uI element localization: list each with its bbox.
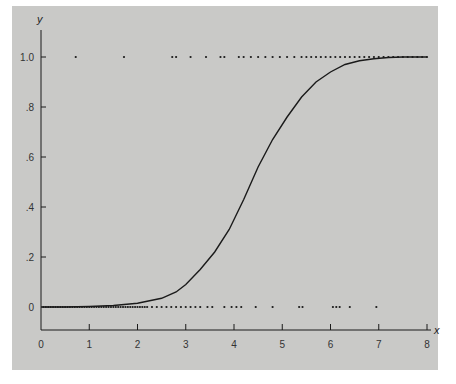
data-point [136,306,138,308]
data-point [344,56,346,58]
data-point [335,306,337,308]
data-point [219,56,221,58]
data-point [206,306,208,308]
data-point [339,306,341,308]
data-point [171,56,173,58]
x-tick-label: 3 [183,339,189,350]
data-point [373,56,375,58]
data-point [286,56,288,58]
data-point [205,56,207,58]
data-point [156,306,158,308]
y-tick-label: .4 [26,202,35,213]
y-tick-label: 1.0 [20,52,34,63]
x-tick-label: 7 [376,339,382,350]
data-point [255,306,257,308]
data-point [349,56,351,58]
data-point [230,306,232,308]
data-point [301,306,303,308]
data-point [325,56,327,58]
data-point [175,56,177,58]
y-tick-label: .2 [26,252,35,263]
data-point [211,306,213,308]
data-point [139,306,141,308]
data-point [293,56,295,58]
data-point [175,306,177,308]
data-point [320,56,322,58]
data-point [272,306,274,308]
x-tick-label: 6 [328,339,334,350]
data-point [238,56,240,58]
data-point [354,56,356,58]
axes: 0123456780.2.4.6.81.0 [20,30,431,350]
data-point [363,56,365,58]
data-point [189,56,191,58]
data-point [315,56,317,58]
logistic-curve [41,57,427,307]
data-point [305,56,307,58]
data-point [123,56,125,58]
data-point [264,56,266,58]
data-points [42,56,428,308]
chart-canvas: 0123456780.2.4.6.81.0 y x [0,0,456,384]
data-point [375,306,377,308]
x-tick-label: 1 [86,339,92,350]
data-point [349,306,351,308]
x-tick-label: 0 [38,339,44,350]
data-point [117,306,119,308]
data-point [339,56,341,58]
data-point [122,306,124,308]
y-tick-label: .6 [26,152,35,163]
data-point [329,56,331,58]
data-point [223,56,225,58]
x-tick-label: 4 [231,339,237,350]
data-point [310,56,312,58]
data-point [185,306,187,308]
x-tick-label: 5 [279,339,285,350]
data-point [189,306,191,308]
data-point [298,306,300,308]
data-point [165,306,167,308]
y-axis-label: y [36,13,44,25]
data-point [144,306,146,308]
data-point [120,306,122,308]
data-point [170,306,172,308]
data-point [132,306,134,308]
data-point [300,56,302,58]
data-point [368,56,370,58]
data-point [115,306,117,308]
data-point [250,56,252,58]
data-point [141,306,143,308]
data-point [194,306,196,308]
data-point [180,306,182,308]
data-point [134,306,136,308]
y-tick-label: 0 [28,302,34,313]
data-point [199,306,201,308]
data-point [129,306,131,308]
data-point [124,306,126,308]
data-point [75,56,77,58]
x-axis-label: x [433,324,440,336]
x-tick-label: 8 [424,339,430,350]
data-point [358,56,360,58]
data-point [272,56,274,58]
data-point [235,306,237,308]
data-point [332,306,334,308]
data-point [151,306,153,308]
x-tick-label: 2 [135,339,141,350]
data-point [243,56,245,58]
data-point [240,306,242,308]
data-point [223,306,225,308]
data-point [161,306,163,308]
data-point [334,56,336,58]
data-point [146,306,148,308]
data-point [127,306,129,308]
data-point [279,56,281,58]
data-point [257,56,259,58]
y-tick-label: .8 [26,102,35,113]
